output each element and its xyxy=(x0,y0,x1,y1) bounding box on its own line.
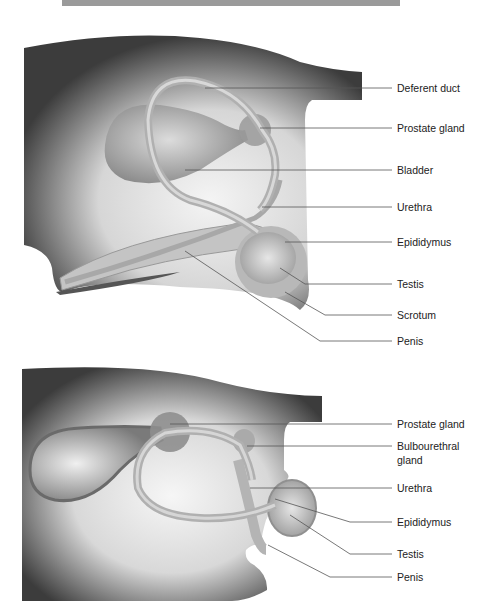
label-testis-lower: Testis xyxy=(397,548,424,561)
label-urethra-lower: Urethra xyxy=(397,482,432,495)
label-bulbourethral-gland-line2: gland xyxy=(397,454,423,467)
lower-diagram: Prostate gland Bulbourethral gland Ureth… xyxy=(0,0,480,606)
label-prostate-gland-lower: Prostate gland xyxy=(397,418,465,431)
label-epididymus-lower: Epididymus xyxy=(397,516,451,529)
label-bulbourethral-gland-line1: Bulbourethral xyxy=(397,440,459,453)
label-penis-lower: Penis xyxy=(397,571,423,584)
